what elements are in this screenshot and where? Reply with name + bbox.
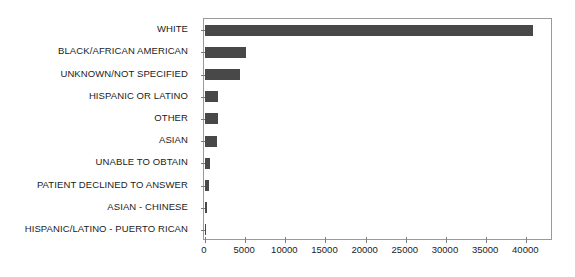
- y-tick-mark: [201, 208, 205, 209]
- x-tick-label-1: 5000: [234, 244, 255, 255]
- y-tick-mark: [201, 30, 205, 31]
- y-axis-label-6: UNABLE TO OBTAIN: [0, 157, 197, 167]
- plot-area: [203, 18, 552, 240]
- bar: [205, 202, 207, 213]
- bar: [205, 25, 533, 36]
- y-tick-mark: [201, 163, 205, 164]
- x-tick-label-3: 15000: [311, 244, 337, 255]
- bar: [205, 69, 240, 80]
- y-axis-label-4: OTHER: [0, 113, 197, 123]
- y-tick-mark: [201, 119, 205, 120]
- x-tick-label-7: 35000: [472, 244, 498, 255]
- y-axis-label-2: UNKNOWN/NOT SPECIFIED: [0, 69, 197, 79]
- bar: [205, 224, 206, 235]
- y-axis-label-8: ASIAN - CHINESE: [0, 202, 197, 212]
- x-tick-label-4: 20000: [351, 244, 377, 255]
- y-tick-mark: [201, 186, 205, 187]
- bar-chart-figure: WHITEBLACK/AFRICAN AMERICANUNKNOWN/NOT S…: [0, 0, 575, 277]
- bar: [205, 136, 217, 147]
- x-tick-mark-top: [245, 237, 246, 240]
- y-tick-mark: [201, 230, 205, 231]
- bar: [205, 113, 218, 124]
- x-tick-mark-top: [205, 237, 206, 240]
- x-tick-label-8: 40000: [512, 244, 538, 255]
- y-axis-label-0: WHITE: [0, 24, 197, 34]
- y-tick-mark: [201, 52, 205, 53]
- x-tick-mark-top: [526, 237, 527, 240]
- x-tick-label-0: 0: [201, 244, 206, 255]
- y-axis-label-7: PATIENT DECLINED TO ANSWER: [0, 180, 197, 190]
- x-tick-mark-top: [325, 237, 326, 240]
- x-tick-label-5: 25000: [392, 244, 418, 255]
- y-axis-category-labels: WHITEBLACK/AFRICAN AMERICANUNKNOWN/NOT S…: [0, 18, 197, 240]
- bar: [205, 158, 210, 169]
- bar: [205, 180, 209, 191]
- y-axis-label-1: BLACK/AFRICAN AMERICAN: [0, 46, 197, 56]
- x-tick-mark-top: [366, 237, 367, 240]
- y-axis-label-9: HISPANIC/LATINO - PUERTO RICAN: [0, 224, 197, 234]
- x-tick-label-6: 30000: [432, 244, 458, 255]
- x-tick-label-2: 10000: [271, 244, 297, 255]
- bar: [205, 91, 218, 102]
- x-tick-mark-top: [285, 237, 286, 240]
- x-tick-mark-top: [486, 237, 487, 240]
- x-tick-mark-top: [406, 237, 407, 240]
- x-tick-mark-top: [446, 237, 447, 240]
- y-tick-mark: [201, 97, 205, 98]
- bar: [205, 47, 246, 58]
- y-tick-mark: [201, 75, 205, 76]
- y-axis-label-5: ASIAN: [0, 135, 197, 145]
- y-axis-label-3: HISPANIC OR LATINO: [0, 91, 197, 101]
- y-tick-mark: [201, 141, 205, 142]
